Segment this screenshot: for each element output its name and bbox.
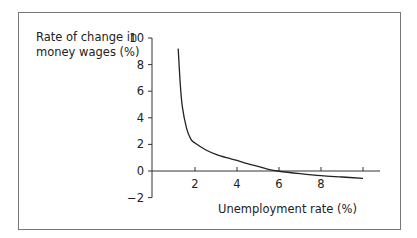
y-tick-label: 2 bbox=[137, 137, 144, 151]
y-tick-label: 0 bbox=[137, 164, 144, 178]
y-tick-label: −2 bbox=[127, 191, 144, 205]
y-tick-label: 4 bbox=[137, 111, 144, 125]
x-tick-label: 6 bbox=[275, 177, 282, 191]
x-tick-label: 8 bbox=[317, 177, 324, 191]
x-tick-label: 4 bbox=[233, 177, 240, 191]
y-tick-label: 6 bbox=[137, 84, 144, 98]
plot-area: −202468102468 bbox=[0, 0, 417, 238]
phillips-curve-line bbox=[178, 49, 363, 179]
x-tick-label: 2 bbox=[191, 177, 198, 191]
y-tick-label: 8 bbox=[137, 58, 144, 72]
y-tick-label: 10 bbox=[129, 31, 144, 45]
